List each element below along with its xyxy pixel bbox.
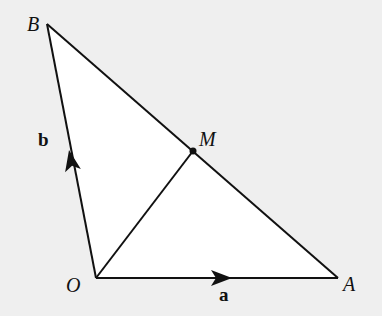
- point-M: [190, 148, 197, 155]
- label-O: O: [66, 274, 80, 296]
- label-M: M: [198, 128, 217, 150]
- vector-diagram: B b M O a A: [0, 0, 382, 316]
- label-b: b: [38, 129, 49, 150]
- label-a: a: [219, 284, 229, 305]
- label-A: A: [341, 273, 356, 295]
- label-B: B: [27, 13, 39, 35]
